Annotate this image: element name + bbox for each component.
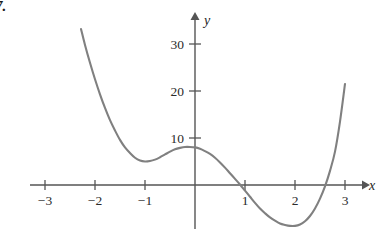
x-tick-label: −2 <box>88 193 102 208</box>
x-tick-label: −3 <box>38 193 53 208</box>
y-tick-label: 20 <box>171 84 185 99</box>
graph-plot: −3−2−1123 102030 x y <box>0 0 380 229</box>
x-tick-label: 1 <box>242 193 249 208</box>
problem-number-label: 7. <box>0 0 6 15</box>
data-curve <box>81 29 345 226</box>
y-axis-arrow-icon <box>191 12 200 20</box>
y-axis-label: y <box>202 13 211 28</box>
x-tick-label: 2 <box>292 193 299 208</box>
x-tick-label: −1 <box>138 193 152 208</box>
x-tick-label: 3 <box>342 193 349 208</box>
x-axis-ticks: −3−2−1123 <box>38 180 349 208</box>
y-tick-label: 30 <box>171 37 185 52</box>
figure-container: 7. −3−2−1123 102030 x y <box>0 0 380 229</box>
x-axis-label: x <box>368 178 376 193</box>
y-tick-label: 10 <box>171 131 185 146</box>
y-axis-ticks: 102030 <box>171 37 202 146</box>
